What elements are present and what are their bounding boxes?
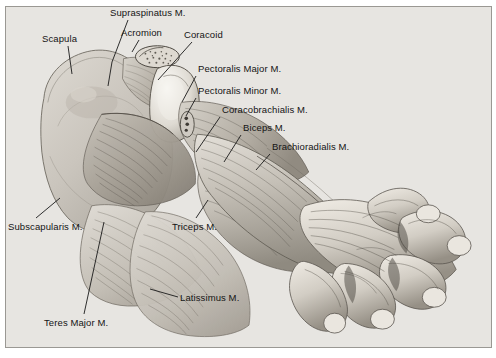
label-acromion: Acromion (121, 28, 162, 38)
figure-page: Supraspinatus M.AcromionCoracoidScapulaP… (0, 0, 496, 358)
label-triceps: Triceps M. (172, 222, 217, 232)
label-biceps: Biceps M. (243, 123, 286, 133)
label-supraspinatus: Supraspinatus M. (110, 8, 186, 18)
label-teres-major: Teres Major M. (44, 318, 108, 328)
label-scapula: Scapula (42, 34, 77, 44)
label-layer: Supraspinatus M.AcromionCoracoidScapulaP… (0, 0, 496, 358)
label-coracobrachialis: Coracobrachialis M. (222, 105, 308, 115)
label-pectoralis-major: Pectoralis Major M. (198, 64, 281, 74)
label-latissimus: Latissimus M. (180, 293, 239, 303)
label-coracoid: Coracoid (184, 30, 223, 40)
label-pectoralis-minor: Pectoralis Minor M. (198, 86, 281, 96)
label-subscapularis: Subscapularis M. (8, 222, 82, 232)
label-brachioradialis: Brachioradialis M. (272, 142, 349, 152)
